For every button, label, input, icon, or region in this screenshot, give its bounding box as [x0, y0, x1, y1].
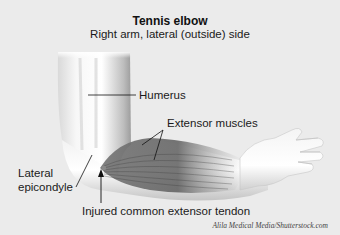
label-injured-tendon: Injured common extensor tendon — [82, 205, 250, 218]
label-lateral-epicondyle-line1: Lateral — [18, 167, 53, 180]
label-extensor-muscles: Extensor muscles — [167, 117, 258, 130]
label-lateral-epicondyle-line2: epicondyle — [18, 181, 73, 194]
image-credit: Alila Medical Media/Shutterstock.com — [212, 221, 328, 230]
injury-site — [102, 166, 106, 170]
diagram-subtitle: Right arm, lateral (outside) side — [0, 28, 340, 40]
label-humerus: Humerus — [139, 89, 186, 102]
tennis-elbow-diagram: Tennis elbow Right arm, lateral (outside… — [0, 0, 340, 235]
hand — [240, 128, 323, 190]
diagram-title: Tennis elbow — [0, 14, 340, 28]
